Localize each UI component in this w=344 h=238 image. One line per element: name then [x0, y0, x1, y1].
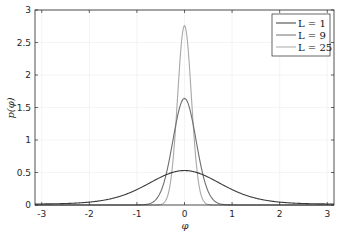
legend-label-l9: L = 9 [298, 30, 326, 41]
y-tick-label: 1 [25, 135, 31, 145]
x-axis-label: φ [181, 220, 188, 231]
x-tick-label: 3 [324, 209, 330, 219]
x-tick-labels: -3-2-10123 [37, 209, 330, 219]
y-tick-label: 0 [25, 200, 31, 210]
x-tick-label: -3 [37, 209, 46, 219]
x-tick-label: 0 [182, 209, 188, 219]
x-tick-label: -1 [132, 209, 141, 219]
legend: L = 1 L = 9 L = 25 [272, 14, 332, 56]
chart: -3-2-10123 00.511.522.53 φ p(φ) L = 1 L … [0, 0, 344, 238]
y-tick-label: 0.5 [17, 168, 31, 178]
legend-label-l25: L = 25 [298, 42, 332, 53]
legend-label-l1: L = 1 [298, 18, 326, 29]
y-axis-label: p(φ) [5, 97, 16, 118]
y-tick-labels: 00.511.522.53 [17, 5, 32, 210]
y-tick-label: 2 [25, 70, 31, 80]
x-tick-label: -2 [85, 209, 94, 219]
y-tick-label: 3 [25, 5, 31, 15]
y-tick-label: 1.5 [17, 103, 31, 113]
x-tick-label: 2 [277, 209, 283, 219]
x-tick-label: 1 [229, 209, 235, 219]
y-tick-label: 2.5 [17, 38, 31, 48]
